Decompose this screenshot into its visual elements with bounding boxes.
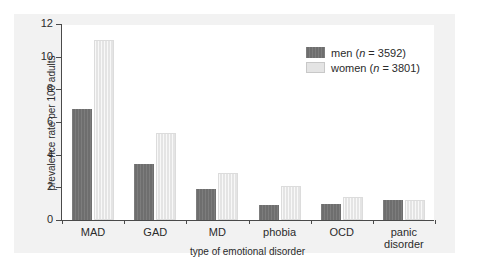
y-tick-label: 6 [47, 115, 53, 127]
legend-swatch-men [306, 47, 325, 58]
x-tick-mark [311, 220, 312, 224]
bar-women-phobia [281, 186, 301, 220]
legend-label-men: men (n = 3592) [331, 47, 406, 59]
x-tick-mark [124, 220, 125, 224]
x-tick-mark [249, 220, 250, 224]
x-tick-mark [186, 220, 187, 224]
x-tick-label: OCD [307, 226, 377, 238]
bar-women-OCD [343, 197, 363, 220]
legend-item-women: women (n = 3801) [306, 60, 420, 75]
x-tick-label: MD [182, 226, 252, 238]
bar-group [196, 25, 238, 220]
bar-men-phobia [259, 205, 279, 220]
x-tick-label: phobia [245, 226, 315, 238]
bar-group [134, 25, 176, 220]
bar-women-panic-disorder [405, 200, 425, 220]
bar-men-OCD [321, 204, 341, 220]
cropped-text-above-figure [0, 0, 480, 13]
bar-women-MD [218, 173, 238, 220]
bar-women-GAD [156, 133, 176, 220]
bar-men-MAD [72, 109, 92, 220]
legend-label-women: women (n = 3801) [331, 62, 420, 74]
legend-swatch-women [306, 62, 325, 73]
x-tick-label: MAD [58, 226, 128, 238]
legend-item-men: men (n = 3592) [306, 45, 420, 60]
plot-frame: prevalence rate per 100 adults 024681012… [61, 25, 434, 221]
x-tick-mark [435, 220, 436, 224]
y-tick-label: 4 [47, 148, 53, 160]
y-tick-label: 12 [41, 17, 53, 29]
bar-men-GAD [134, 164, 154, 220]
bar-group [259, 25, 301, 220]
x-tick-mark [62, 220, 63, 224]
y-tick-label: 0 [47, 213, 53, 225]
bar-group [72, 25, 114, 220]
legend: men (n = 3592)women (n = 3801) [304, 43, 422, 77]
bar-men-MD [196, 189, 216, 220]
y-tick-label: 2 [47, 180, 53, 192]
figure-panel: prevalence rate per 100 adults 024681012… [14, 14, 455, 253]
x-tick-label: GAD [120, 226, 190, 238]
bar-men-panic-disorder [383, 200, 403, 220]
y-tick-label: 10 [41, 50, 53, 62]
x-tick-mark [373, 220, 374, 224]
x-axis-title: type of emotional disorder [61, 246, 434, 257]
y-tick-label: 8 [47, 82, 53, 94]
bar-women-MAD [94, 40, 114, 220]
